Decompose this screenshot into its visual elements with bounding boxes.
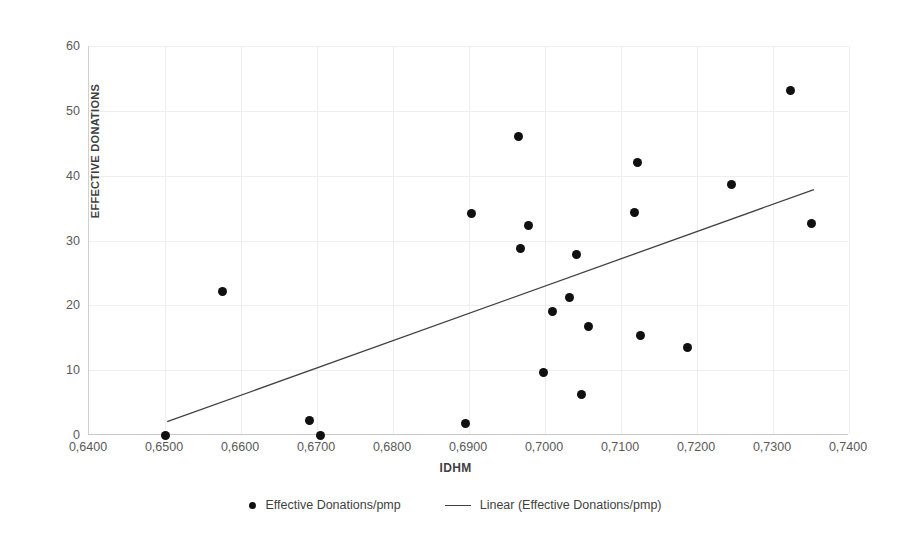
scatter-chart: 0102030405060 0,64000,65000,66000,67000,… — [0, 0, 911, 558]
legend-marker-circle-icon — [249, 502, 256, 509]
data-point[interactable] — [524, 221, 533, 230]
legend-item-trendline[interactable]: Linear (Effective Donations/pmp) — [445, 498, 662, 512]
chart-legend: Effective Donations/pmp Linear (Effectiv… — [0, 498, 911, 512]
x-axis-tick-labels: 0,64000,65000,66000,67000,68000,69000,70… — [88, 440, 848, 460]
gridline-vertical — [849, 46, 850, 434]
data-points-layer — [89, 46, 848, 434]
data-point[interactable] — [161, 431, 170, 440]
y-axis-tick-label: 50 — [38, 104, 80, 118]
data-point[interactable] — [461, 419, 470, 428]
data-point[interactable] — [565, 293, 574, 302]
x-axis-tick-label: 0,7000 — [525, 440, 563, 454]
legend-item-scatter[interactable]: Effective Donations/pmp — [249, 498, 400, 512]
legend-label-trendline: Linear (Effective Donations/pmp) — [480, 498, 662, 512]
data-point[interactable] — [218, 287, 227, 296]
data-point[interactable] — [727, 180, 736, 189]
data-point[interactable] — [633, 158, 642, 167]
y-axis-tick-label: 20 — [38, 298, 80, 312]
x-axis-tick-label: 0,7100 — [601, 440, 639, 454]
data-point[interactable] — [316, 431, 325, 440]
data-point[interactable] — [786, 86, 795, 95]
x-axis-tick-label: 0,6500 — [145, 440, 183, 454]
plot-area — [88, 46, 848, 435]
x-axis-tick-label: 0,6600 — [221, 440, 259, 454]
data-point[interactable] — [584, 322, 593, 331]
x-axis-tick-label: 0,7300 — [753, 440, 791, 454]
x-axis-title: IDHM — [0, 461, 911, 475]
data-point[interactable] — [683, 343, 692, 352]
data-point[interactable] — [572, 250, 581, 259]
legend-marker-line-icon — [445, 505, 471, 506]
data-point[interactable] — [636, 331, 645, 340]
y-axis-tick-labels: 0102030405060 — [34, 46, 80, 435]
x-axis-tick-label: 0,7200 — [677, 440, 715, 454]
data-point[interactable] — [516, 244, 525, 253]
x-axis-tick-label: 0,6700 — [297, 440, 335, 454]
y-axis-tick-label: 30 — [38, 234, 80, 248]
data-point[interactable] — [305, 416, 314, 425]
data-point[interactable] — [807, 219, 816, 228]
data-point[interactable] — [539, 368, 548, 377]
x-axis-tick-label: 0,6900 — [449, 440, 487, 454]
data-point[interactable] — [514, 132, 523, 141]
y-axis-tick-label: 10 — [38, 363, 80, 377]
x-axis-tick-label: 0,6800 — [373, 440, 411, 454]
x-axis-tick-label: 0,7400 — [829, 440, 867, 454]
legend-label-scatter: Effective Donations/pmp — [265, 498, 400, 512]
x-axis-tick-label: 0,6400 — [69, 440, 107, 454]
y-axis-tick-label: 60 — [38, 39, 80, 53]
data-point[interactable] — [548, 307, 557, 316]
y-axis-tick-label: 40 — [38, 169, 80, 183]
y-axis-title: EFFECTIVE DONATIONS — [89, 51, 101, 251]
data-point[interactable] — [577, 390, 586, 399]
data-point[interactable] — [467, 209, 476, 218]
data-point[interactable] — [630, 208, 639, 217]
